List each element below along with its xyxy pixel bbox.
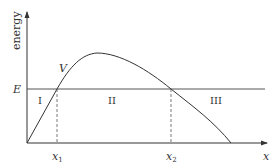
x2-label: x2 [166,150,177,164]
region-label-I: I [38,95,42,106]
x1-label: x1 [52,150,63,164]
region-label-II: II [108,95,116,106]
x-axis-label: x [263,150,270,163]
curve-label: V [59,62,68,75]
y-axis-label: energy [10,11,23,50]
energy-label: E [12,83,21,96]
region-label-III: III [210,95,222,106]
potential-curve [27,53,231,143]
potential-barrier-diagram: energy E V I II III x1 x2 x [0,0,279,166]
